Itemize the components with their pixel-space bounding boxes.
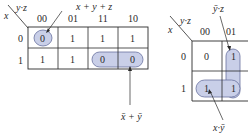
left-cell-0-01: 1 <box>70 33 75 44</box>
karnaugh-maps-diagram: x y·z 00 01 11 10 0 1 0 1 1 1 1 1 0 0 x … <box>0 0 248 135</box>
left-top-group-label: x + y + z <box>75 1 112 12</box>
left-cell-0-00: 0 <box>40 33 45 44</box>
left-cell-0-10: 1 <box>130 33 135 44</box>
left-col-header-01: 01 <box>68 13 78 24</box>
right-cell-0-01: 1 <box>231 51 236 62</box>
right-cell-1-01: 1 <box>231 83 236 94</box>
right-cell-1-00: 1 <box>204 83 209 94</box>
right-row-header-1: 1 <box>181 83 186 94</box>
right-row-header-0: 0 <box>181 51 186 62</box>
left-col-header-00: 00 <box>37 13 47 24</box>
left-cell-1-01: 1 <box>70 54 75 65</box>
left-row-header-1: 1 <box>18 55 23 66</box>
right-karnaugh-map: x y·z 00 01 0 1 0 1 1 1 ȳ·z x·ȳ <box>167 3 248 133</box>
right-col-var-label: y·z <box>179 15 191 26</box>
right-row-var-label: x <box>167 24 173 35</box>
right-col-header-00: 00 <box>200 26 210 37</box>
left-cell-1-00: 1 <box>40 54 45 65</box>
left-karnaugh-map: x y·z 00 01 11 10 0 1 0 1 1 1 1 1 0 0 x … <box>3 1 148 122</box>
left-col-header-11: 11 <box>98 13 108 24</box>
right-bottom-group-label: x·ȳ <box>212 122 225 133</box>
arrow-line-top <box>47 11 62 32</box>
left-cell-1-10: 0 <box>130 54 135 65</box>
left-row-header-0: 0 <box>18 33 23 44</box>
right-col-header-01: 01 <box>226 26 236 37</box>
left-cell-1-11: 0 <box>100 54 105 65</box>
right-top-group-label: ȳ·z <box>212 3 224 14</box>
left-cell-0-11: 1 <box>100 33 105 44</box>
left-row-var-label: x <box>3 10 9 21</box>
left-col-var-label: y·z <box>15 2 27 13</box>
left-col-header-10: 10 <box>128 13 138 24</box>
left-bottom-group-label: x̄ + ȳ <box>120 111 142 122</box>
right-cell-0-00: 0 <box>204 51 209 62</box>
